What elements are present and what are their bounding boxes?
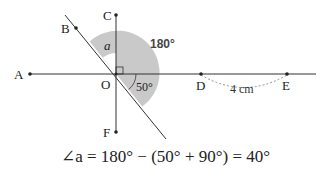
label-A: A (14, 67, 24, 82)
label-B: B (61, 21, 70, 36)
label-C: C (103, 8, 112, 23)
point-O (115, 73, 118, 76)
label-angle-50: 50° (136, 80, 153, 94)
point-C (114, 13, 118, 17)
point-E (285, 72, 289, 76)
point-B (74, 26, 78, 30)
label-E: E (282, 78, 290, 93)
point-F (114, 130, 118, 134)
label-D: D (196, 78, 205, 93)
angle-formula: ∠a = 180° − (50° + 90°) = 40° (0, 146, 331, 167)
point-A (28, 72, 32, 76)
label-angle-180: 180° (150, 37, 175, 51)
label-angle-a: a (104, 38, 111, 53)
label-O: O (101, 77, 110, 92)
label-distance-DE: 4 cm (230, 82, 254, 96)
label-F: F (103, 125, 110, 140)
point-D (199, 72, 203, 76)
